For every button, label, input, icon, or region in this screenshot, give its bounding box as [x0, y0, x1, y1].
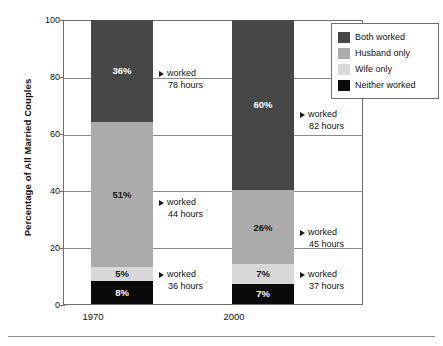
legend-item-neither-worked[interactable]: Neither worked	[338, 77, 432, 93]
callout-line1: worked	[308, 109, 337, 119]
legend-label: Neither worked	[355, 80, 416, 90]
callout-text: worked 82 hours	[308, 109, 344, 132]
segment-label-2000-wife: 7%	[256, 269, 270, 279]
triangle-right-icon	[159, 272, 164, 278]
bar-2000[interactable]: 7% 7% 26% 60%	[232, 20, 294, 304]
segment-2000-neither-worked[interactable]: 7%	[232, 284, 294, 304]
callout-text: worked 78 hours	[167, 68, 203, 91]
segment-label-1970-neither: 8%	[115, 288, 129, 298]
callout-line1: worked	[167, 269, 196, 279]
triangle-right-icon	[159, 200, 164, 206]
legend-swatch-icon	[338, 64, 350, 75]
bar-1970[interactable]: 8% 5% 51% 36%	[91, 20, 153, 304]
y-tick-label-100: 100	[20, 15, 60, 25]
segment-2000-husband-only[interactable]: 26%	[232, 190, 294, 264]
footer-divider	[8, 336, 435, 337]
callout-2000-both-worked: worked 82 hours	[300, 109, 344, 132]
triangle-right-icon	[300, 230, 305, 236]
triangle-right-icon	[300, 272, 305, 278]
callout-line1: worked	[308, 269, 337, 279]
y-tick-label-60: 60	[20, 129, 60, 139]
segment-label-2000-both: 60%	[253, 100, 272, 110]
legend-label: Both worked	[355, 32, 405, 42]
callout-1970-husband-only: worked 44 hours	[159, 197, 203, 220]
callout-text: worked 36 hours	[167, 269, 203, 292]
segment-1970-both-worked[interactable]: 36%	[91, 20, 153, 122]
callout-text: worked 44 hours	[167, 197, 203, 220]
callout-2000-husband-only: worked 45 hours	[300, 227, 344, 250]
segment-2000-wife-only[interactable]: 7%	[232, 264, 294, 284]
legend-swatch-icon	[338, 32, 350, 43]
triangle-right-icon	[300, 112, 305, 118]
segment-label-1970-both: 36%	[112, 66, 131, 76]
y-tick-label-20: 20	[20, 243, 60, 253]
stacked-bar-chart: Percentage of All Married Couples 100 80…	[0, 0, 443, 346]
callout-line2: 78 hours	[167, 80, 203, 90]
callout-line1: worked	[167, 68, 196, 78]
y-tick-label-0: 0	[20, 300, 60, 310]
triangle-right-icon	[159, 71, 164, 77]
y-axis-ticks: 100 80 60 40 20 0	[18, 20, 60, 305]
segment-1970-husband-only[interactable]: 51%	[91, 122, 153, 267]
callout-1970-wife-only: worked 36 hours	[159, 269, 203, 292]
legend-swatch-icon	[338, 80, 350, 91]
plot-area: 8% 5% 51% 36% 7% 7%	[63, 20, 363, 305]
legend-swatch-icon	[338, 48, 350, 59]
callout-line1: worked	[167, 197, 196, 207]
callout-text: worked 45 hours	[308, 227, 344, 250]
callout-text: worked 37 hours	[308, 269, 344, 292]
callout-line2: 44 hours	[167, 209, 203, 219]
legend-item-wife-only[interactable]: Wife only	[338, 61, 432, 77]
x-tick-label-2000: 2000	[194, 311, 274, 322]
y-tick-label-40: 40	[20, 186, 60, 196]
segment-2000-both-worked[interactable]: 60%	[232, 20, 294, 190]
legend: Both worked Husband only Wife only Neith…	[331, 23, 439, 99]
legend-label: Husband only	[355, 48, 410, 58]
callout-line1: worked	[308, 227, 337, 237]
callout-line2: 45 hours	[308, 239, 344, 249]
segment-label-1970-wife: 5%	[115, 269, 129, 279]
callout-line2: 37 hours	[308, 281, 344, 291]
segment-label-2000-neither: 7%	[256, 289, 270, 299]
y-tick-mark-0	[60, 305, 65, 306]
legend-item-husband-only[interactable]: Husband only	[338, 45, 432, 61]
x-tick-label-1970: 1970	[53, 311, 133, 322]
segment-1970-neither-worked[interactable]: 8%	[91, 281, 153, 304]
legend-label: Wife only	[355, 64, 392, 74]
callout-line2: 36 hours	[167, 281, 203, 291]
y-tick-label-80: 80	[20, 72, 60, 82]
legend-item-both-worked[interactable]: Both worked	[338, 29, 432, 45]
segment-label-1970-husband: 51%	[112, 190, 131, 200]
callout-line2: 82 hours	[308, 121, 344, 131]
callout-2000-wife-only: worked 37 hours	[300, 269, 344, 292]
segment-label-2000-husband: 26%	[253, 223, 272, 233]
segment-1970-wife-only[interactable]: 5%	[91, 267, 153, 281]
callout-1970-both-worked: worked 78 hours	[159, 68, 203, 91]
